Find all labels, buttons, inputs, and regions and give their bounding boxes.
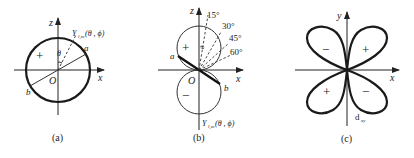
panel-a: z x O + θ a b Y l,m (θ , ϕ) (a) bbox=[14, 17, 105, 144]
angle-60: 60° bbox=[230, 47, 243, 57]
z-axis-label: z bbox=[48, 17, 53, 28]
svg-text:xy: xy bbox=[360, 118, 366, 123]
svg-text:d: d bbox=[355, 112, 360, 122]
panel-b: z x O 15° 30° 45° 60° θ + − a b Y l,m (θ… bbox=[158, 5, 243, 144]
minus-sign: − bbox=[182, 88, 189, 103]
panel-c: y x − + + − d xy (c) bbox=[295, 10, 399, 145]
svg-text:(θ , ϕ): (θ , ϕ) bbox=[85, 29, 105, 38]
angle-15: 15° bbox=[207, 10, 220, 20]
plus-sign: + bbox=[36, 48, 43, 63]
point-b-label: b bbox=[224, 83, 229, 93]
angle-30: 30° bbox=[222, 21, 235, 31]
function-label: Y l,m (θ , ϕ) bbox=[202, 119, 235, 130]
theta-arc bbox=[58, 62, 62, 63]
point-b-label: b bbox=[26, 87, 31, 97]
y-axis-label: y bbox=[336, 10, 342, 21]
sign-upper-right: + bbox=[362, 42, 369, 57]
caption-c: (c) bbox=[341, 133, 352, 145]
sign-upper-left: − bbox=[322, 42, 329, 57]
theta-label: θ bbox=[57, 49, 61, 58]
theta-label: θ bbox=[198, 45, 206, 49]
svg-text:l,m: l,m bbox=[78, 34, 85, 40]
x-axis-label: x bbox=[389, 72, 395, 83]
function-label: Y l,m (θ , ϕ) bbox=[72, 29, 105, 40]
sign-lower-right: − bbox=[362, 84, 369, 99]
plus-sign: + bbox=[182, 40, 189, 55]
point-a-label: a bbox=[84, 43, 89, 53]
sign-lower-left: + bbox=[323, 84, 330, 99]
orbital-label: d xy bbox=[355, 112, 366, 123]
x-axis-label: x bbox=[97, 72, 103, 83]
caption-a: (a) bbox=[52, 132, 63, 144]
origin-label: O bbox=[49, 75, 56, 86]
z-axis-label: z bbox=[189, 5, 194, 16]
spherical-harmonics-figure: z x O + θ a b Y l,m (θ , ϕ) (a) z x O 15… bbox=[0, 0, 414, 158]
angle-45: 45° bbox=[229, 33, 242, 43]
caption-b: (b) bbox=[193, 132, 205, 144]
svg-text:(θ , ϕ): (θ , ϕ) bbox=[215, 119, 235, 128]
svg-text:l,m: l,m bbox=[208, 124, 215, 130]
point-a-label: a bbox=[170, 51, 175, 61]
x-axis-label: x bbox=[235, 73, 241, 84]
origin-label: O bbox=[188, 75, 195, 86]
